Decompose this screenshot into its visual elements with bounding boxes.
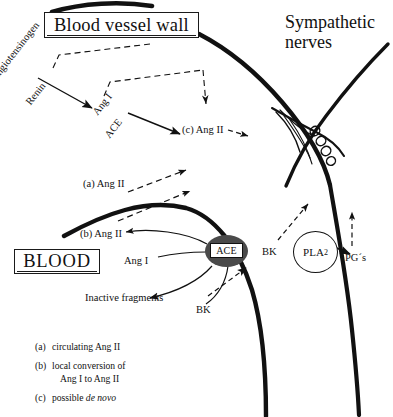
legend-tag-b: (b) <box>35 360 52 385</box>
legend-tag-c: (c) <box>35 392 52 404</box>
legend-text-c: possible de novo <box>52 392 235 404</box>
legend-tag-a: (a) <box>35 341 52 353</box>
pla2-subscript: 2 <box>324 248 328 257</box>
dashed-arrow-c-angii-to-nerve <box>228 130 248 136</box>
label-inactive-fragments: Inactive fragments <box>85 292 163 304</box>
curve-angi-to-ace <box>158 252 206 257</box>
label-bk-wall: BK <box>262 246 277 258</box>
label-sympathetic-nerves-line1: Sympathetic <box>285 12 375 32</box>
legend-item-c: (c) possible de novo <box>35 392 235 404</box>
box-blood-vessel-wall: Blood vessel wall <box>44 12 199 38</box>
legend-text-b: local conversion of Ang I to Ang II <box>52 360 235 385</box>
box-blood: BLOOD <box>14 249 100 274</box>
dashed-arrow-to-c-angii <box>203 70 206 104</box>
label-sympathetic-nerves: Sympathetic nerves <box>285 12 375 52</box>
label-b-ang-ii: (b) Ang II <box>80 228 122 240</box>
legend-text-a: circulating Ang II <box>52 341 235 353</box>
pla2-label: PLA <box>303 246 324 258</box>
curve-ace-to-bk <box>206 266 228 304</box>
box-blood-text: BLOOD <box>23 251 91 272</box>
label-c-ang-ii: (c) Ang II <box>182 124 223 136</box>
label-bk-blood: BK <box>196 304 211 316</box>
nerve-branch-main <box>272 108 344 156</box>
legend-item-b: (b) local conversion of Ang I to Ang II <box>35 360 235 385</box>
dashed-bracket-inner <box>104 70 203 96</box>
label-pgs: PG´s <box>345 252 366 264</box>
vessel-wall-top-fragment <box>52 3 152 12</box>
legend-item-a: (a) circulating Ang II <box>35 341 235 353</box>
legend-text-c-italic: de novo <box>86 392 116 403</box>
diagram-canvas: Blood vessel wall BLOOD Sympathetic nerv… <box>0 0 393 417</box>
pla2-enzyme-circle: PLA2 <box>293 231 338 273</box>
vessel-wall-outer-lower <box>330 185 359 415</box>
label-sympathetic-nerves-line2: nerves <box>285 32 375 52</box>
legend-text-c-plain: possible <box>52 392 86 403</box>
label-a-ang-ii: (a) Ang II <box>83 178 124 190</box>
dashed-bracket-outer <box>53 44 150 68</box>
box-inner-rule <box>47 35 196 36</box>
dashed-arrow-a-angii <box>128 170 186 192</box>
box-blood-vessel-wall-text: Blood vessel wall <box>54 15 189 36</box>
arrow-angi-to-angii-wall <box>128 113 180 134</box>
vessel-wall-outer-upper <box>199 34 330 185</box>
curve-ace-to-b-angii <box>126 231 207 245</box>
label-ang-i-blood: Ang I <box>124 255 148 267</box>
box-inner-rule <box>17 271 97 272</box>
legend-text-b-line2: Ang I to Ang II <box>52 373 235 385</box>
legend-text-b-line1: local conversion of <box>52 360 235 372</box>
sympathetic-nerve-trunk <box>286 44 388 186</box>
ace-enzyme-label: ACE <box>210 243 243 258</box>
arrow-angiotensinogen-to-angi <box>38 78 92 108</box>
figure-legend: (a) circulating Ang II (b) local convers… <box>35 341 235 411</box>
